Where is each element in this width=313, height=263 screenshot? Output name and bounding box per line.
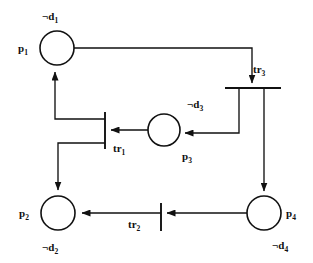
arc-tr1-to-p2 xyxy=(58,143,105,190)
place-p3[interactable] xyxy=(148,114,180,146)
label-transition-tr1: tr1 xyxy=(113,142,126,157)
place-p1[interactable] xyxy=(40,31,74,65)
arc-tr1-to-p1 xyxy=(55,72,105,119)
label-place-p4: p4 xyxy=(286,207,296,222)
place-p4[interactable] xyxy=(247,196,281,230)
place-layer xyxy=(40,31,281,230)
label-place-p1: p1 xyxy=(18,42,28,57)
label-annotation-d2: ¬d2 xyxy=(42,241,58,256)
label-annotation-d3: ¬d3 xyxy=(187,98,203,113)
label-annotation-d4: ¬d4 xyxy=(272,239,288,254)
petri-net-canvas: p1 ¬d1 p2 ¬d2 p3 ¬d3 p4 xyxy=(0,0,313,263)
label-transition-tr3: tr3 xyxy=(253,63,266,78)
arc-tr3-to-p3 xyxy=(185,89,239,133)
arc-p1-to-tr3 xyxy=(74,48,252,83)
place-p2[interactable] xyxy=(41,196,75,230)
label-transition-tr2: tr2 xyxy=(128,218,141,233)
label-annotation-d1: ¬d1 xyxy=(42,10,58,25)
label-place-p2: p2 xyxy=(19,207,29,222)
petri-net-diagram: p1 ¬d1 p2 ¬d2 p3 ¬d3 p4 xyxy=(0,0,313,263)
label-place-p3: p3 xyxy=(182,150,192,165)
